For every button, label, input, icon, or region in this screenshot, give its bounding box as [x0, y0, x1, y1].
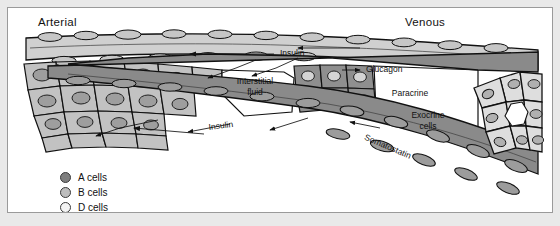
figure-canvas: Arterial Venous Insulin Glucagon Insulin… [0, 0, 560, 226]
glucagon-callout: Glucagon [366, 64, 402, 74]
interstitial-fluid-label: Interstitial fluid [222, 76, 288, 98]
legend-label-b-cells: B cells [78, 187, 107, 198]
exocrine-line2: cells [398, 121, 458, 132]
legend-item-d-cells: D cells [60, 200, 108, 213]
exocrine-line1: Exocrine [398, 110, 458, 121]
legend-item-a-cells: A cells [60, 170, 108, 185]
legend-swatch-d-cells [60, 202, 71, 213]
legend-label-d-cells: D cells [78, 202, 108, 213]
paracrine-line1: Paracrine [380, 88, 440, 99]
lower-b-cell-row [42, 133, 168, 152]
legend-item-b-cells: B cells [60, 185, 108, 200]
legend-swatch-b-cells [60, 187, 71, 198]
arterial-label: Arterial [38, 16, 77, 28]
insulin-upper-callout: Insulin [280, 48, 305, 58]
interstitial-fluid-line1: Interstitial [222, 76, 288, 87]
legend-label-a-cells: A cells [78, 172, 107, 183]
legend-swatch-a-cells [60, 172, 71, 183]
venous-label: Venous [405, 16, 445, 28]
exocrine-cells-label: Exocrine cells [398, 110, 458, 132]
paracrine-label: Paracrine [380, 88, 440, 99]
figure-frame: Arterial Venous Insulin Glucagon Insulin… [7, 7, 553, 213]
cell-type-legend: A cells B cells D cells [60, 170, 108, 213]
interstitial-fluid-line2: fluid [222, 87, 288, 98]
